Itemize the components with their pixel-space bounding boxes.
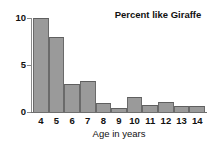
y-tick-mark-10 [27,18,32,19]
x-tick-label-11: 11 [142,114,158,127]
x-tick-label-5: 5 [49,114,65,127]
y-tick-label-0: 0 [4,107,26,117]
bar-10 [127,97,143,112]
x-tick-label-10: 10 [127,114,143,127]
bar-chart: Percent like Giraffe 10 5 0 456789101112… [0,0,214,146]
bar-8 [96,103,112,112]
x-tick-label-13: 13 [174,114,190,127]
x-axis-title: Age in years [33,128,205,139]
plot-area [33,14,205,112]
x-tick-label-4: 4 [33,114,49,127]
bar-12 [158,102,174,112]
x-tick-label-14: 14 [189,114,205,127]
y-axis-labels: 10 5 0 [0,0,26,146]
bar-11 [142,105,158,112]
y-tick-label-5: 5 [4,60,26,70]
bar-7 [80,81,96,112]
x-tick-label-6: 6 [64,114,80,127]
bar-6 [64,84,80,112]
x-axis-labels: 4567891011121314 [33,114,205,127]
y-tick-mark-5 [27,65,32,66]
x-tick-label-9: 9 [111,114,127,127]
x-axis-line [31,112,207,113]
bar-4 [33,18,49,112]
x-tick-label-12: 12 [158,114,174,127]
y-tick-label-10: 10 [4,13,26,23]
x-tick-label-8: 8 [96,114,112,127]
bar-5 [49,37,65,112]
x-tick-label-7: 7 [80,114,96,127]
